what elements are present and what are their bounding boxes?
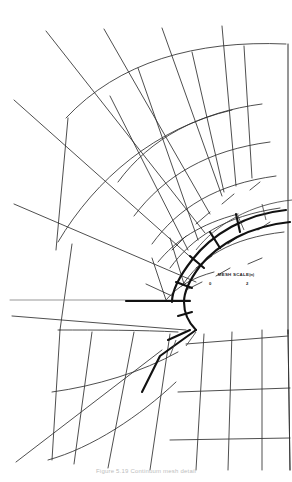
floor-grid-v-2 [228, 332, 232, 470]
figure-container: MESH SCALE(m) 0 2 Figure 5.19 Continuum … [0, 0, 292, 482]
radial-line-mid-2 [192, 52, 224, 192]
radial-line-mid-1 [138, 68, 198, 240]
outer-arc-2 [58, 110, 232, 242]
mid-arc-3 [152, 176, 276, 244]
radial-line-mid-4 [110, 96, 188, 250]
fine-spoke-4 [250, 182, 260, 190]
fine-arc-1 [170, 208, 280, 268]
floor-grid-h-3 [170, 438, 290, 440]
detail-spoke-a [262, 204, 266, 220]
radial-line-outer-1 [46, 31, 205, 233]
fine-spoke-9 [216, 268, 230, 276]
radial-line-mid-3 [244, 46, 252, 178]
mid-arc-2 [134, 142, 270, 216]
inner-cell-radial-3 [146, 284, 172, 296]
fine-spoke-10 [248, 258, 262, 264]
radial-line-outer-4 [222, 26, 236, 186]
inner-cell-radial-1 [152, 258, 166, 300]
radial-line-outer-7 [12, 316, 186, 330]
coarse-vertical-1 [56, 118, 68, 250]
detail-arc-1 [196, 200, 292, 250]
floor-grid-v-1 [196, 334, 204, 470]
fine-spoke-3 [222, 194, 234, 204]
radial-line-outer-6 [14, 204, 196, 282]
lower-arc-1 [58, 330, 178, 332]
radial-line-outer-8 [16, 350, 162, 462]
coarse-vertical-3 [52, 330, 60, 460]
finite-element-mesh-diagram [0, 0, 292, 482]
outer-arc-1 [66, 44, 286, 118]
mid-arc-1 [118, 104, 262, 182]
figure-caption: Figure 5.19 Continuum mesh detail [0, 468, 292, 474]
floor-grid-edge-right [288, 330, 290, 470]
floor-grid-h-1 [186, 336, 288, 344]
lower-radial-2 [108, 332, 134, 468]
mesh-thin-lines [10, 26, 290, 470]
bold-spoke-3 [190, 256, 204, 268]
coarse-vertical-2 [60, 244, 72, 330]
fine-spoke-2 [196, 212, 210, 224]
floor-grid-h-2 [178, 388, 290, 392]
